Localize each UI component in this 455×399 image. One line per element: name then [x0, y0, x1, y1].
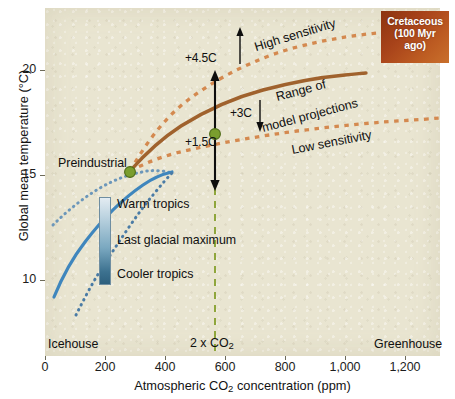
- y-axis-title-unit: °C): [16, 70, 31, 89]
- delta-4-5-label: +4.5C: [185, 52, 216, 65]
- x-axis-title-text-b: concentration (ppm): [233, 378, 350, 393]
- ytick-mark-20: [40, 70, 45, 71]
- co2-doubling-subscript: 2: [229, 340, 234, 351]
- xtick-label-0: 0: [15, 360, 75, 374]
- xtick-label-400: 400: [135, 360, 195, 374]
- ytick-mark-10: [40, 280, 45, 281]
- x-axis-title: Atmospheric CO2 concentration (ppm): [45, 378, 440, 394]
- y-axis-title-text: Global mean temperature (: [16, 88, 31, 241]
- x-axis-title-text-a: Atmospheric CO: [134, 378, 228, 393]
- xtick-mark-0: [45, 356, 46, 360]
- preindustrial-label: Preindustrial: [58, 157, 127, 171]
- cooler-tropics-label: Cooler tropics: [117, 268, 193, 282]
- ytick-label-10: 10: [4, 272, 36, 286]
- cretaceous-callout-box[interactable]: Cretaceous (100 Myr ago): [381, 11, 449, 63]
- cretaceous-line-2: (100 Myr: [381, 28, 449, 40]
- xtick-mark-400: [165, 356, 166, 360]
- icehouse-label: Icehouse: [48, 338, 98, 352]
- xtick-label-1000: 1,000: [315, 360, 375, 374]
- xtick-mark-1000: [345, 356, 346, 360]
- co2-doubling-text: 2 x CO: [190, 336, 229, 350]
- climate-sensitivity-figure: Cretaceous (100 Myr ago) High sensitivit…: [0, 0, 455, 399]
- y-axis-title: Global mean temperature (°C): [16, 51, 31, 261]
- xtick-label-1200: 1,200: [375, 360, 435, 374]
- xtick-label-600: 600: [195, 360, 255, 374]
- xtick-label-200: 200: [75, 360, 135, 374]
- xtick-mark-600: [225, 356, 226, 360]
- delta-3-label: +3C: [230, 107, 252, 120]
- xtick-mark-1200: [405, 356, 406, 360]
- sensitivity-range-arrow-head-up: [210, 70, 219, 81]
- ytick-mark-15: [40, 175, 45, 176]
- cretaceous-line-3: ago): [381, 40, 449, 52]
- sensitivity-range-arrow-head-down: [210, 180, 219, 191]
- last-glacial-maximum-label: Last glacial maximum: [117, 234, 236, 248]
- xtick-label-800: 800: [255, 360, 315, 374]
- greenhouse-label: Greenhouse: [374, 338, 442, 352]
- co2-doubling-label: 2 x CO2: [190, 337, 234, 352]
- delta-1-5-label: +1.5C: [185, 136, 216, 149]
- glacial-temperature-range-bar: [99, 197, 111, 285]
- xtick-mark-800: [285, 356, 286, 360]
- xtick-mark-200: [105, 356, 106, 360]
- warm-tropics-label: Warm tropics: [117, 198, 190, 212]
- high-sensitivity-leader-arrow: [236, 27, 243, 36]
